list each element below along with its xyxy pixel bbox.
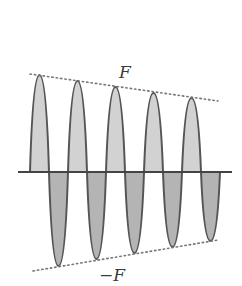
- wave-lobes: [30, 75, 220, 266]
- positive-lobe: [68, 81, 87, 172]
- negative-lobe: [163, 172, 182, 247]
- negative-lobe: [125, 172, 144, 253]
- negative-lobe: [201, 172, 220, 241]
- positive-lobe: [30, 75, 49, 172]
- negative-lobe: [49, 172, 68, 266]
- positive-lobe: [106, 87, 125, 172]
- positive-lobe: [182, 98, 201, 172]
- positive-lobe: [144, 93, 163, 172]
- oscillation-diagram: F −F: [0, 0, 242, 286]
- negative-lobe: [87, 172, 106, 259]
- upper-envelope-label: F: [118, 62, 132, 82]
- lower-envelope-label: −F: [99, 265, 126, 285]
